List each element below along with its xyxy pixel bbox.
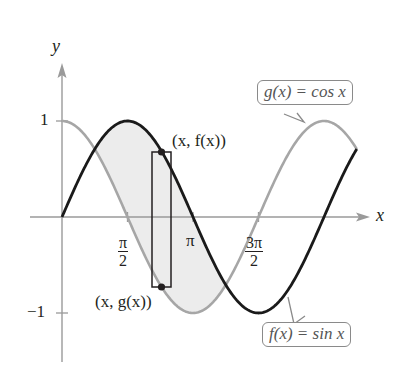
- point-g-dot: [158, 283, 165, 290]
- area-between-curves-figure: y x 1 −1 π 2 π 3π 2 (x, f(x)) (x, g(x)) …: [0, 0, 403, 376]
- f-callout-pointer: [288, 297, 305, 324]
- x-axis-label: x: [376, 205, 384, 226]
- y-axis-label: y: [52, 36, 60, 57]
- f-callout: f(x) = sin x: [262, 322, 351, 347]
- x-axis: [30, 213, 370, 222]
- y-tick-label-neg1: −1: [27, 302, 45, 322]
- point-f-dot: [158, 148, 165, 155]
- point-label-g: (x, g(x)): [95, 292, 152, 312]
- x-tick-label-pi-over-2: π 2: [118, 234, 128, 269]
- plot-canvas: [0, 0, 403, 376]
- x-tick-label-3pi-over-2: 3π 2: [245, 234, 263, 269]
- x-tick-label-pi: π: [186, 231, 195, 251]
- y-tick-label-1: 1: [40, 110, 49, 130]
- g-callout-pointer: [284, 113, 304, 122]
- g-callout: g(x) = cos x: [257, 80, 353, 105]
- point-label-f: (x, f(x)): [172, 131, 226, 151]
